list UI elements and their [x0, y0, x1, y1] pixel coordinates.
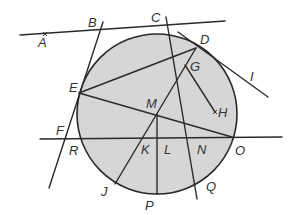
point-label-c: C	[151, 10, 161, 25]
point-label-f: F	[56, 123, 65, 138]
point-label-k: K	[141, 142, 151, 157]
point-label-l: L	[164, 142, 171, 157]
point-label-n: N	[197, 142, 207, 157]
point-label-g: G	[190, 59, 200, 74]
point-label-o: O	[235, 143, 245, 158]
point-label-h: H	[218, 105, 228, 120]
point-label-b: B	[88, 15, 97, 30]
point-label-a: A	[37, 35, 47, 50]
point-label-p: P	[145, 198, 154, 213]
point-label-m: M	[146, 96, 157, 111]
line-FRKLNO	[40, 137, 282, 139]
point-label-d: D	[200, 32, 209, 47]
point-label-r: R	[69, 143, 78, 158]
point-label-i: I	[250, 69, 254, 84]
point-label-j: J	[100, 184, 108, 199]
geometry-diagram: ABCDEFGHIJKLMNOPQR	[0, 0, 296, 215]
point-label-q: Q	[206, 179, 216, 194]
line-AB	[20, 21, 225, 35]
point-label-e: E	[69, 80, 78, 95]
